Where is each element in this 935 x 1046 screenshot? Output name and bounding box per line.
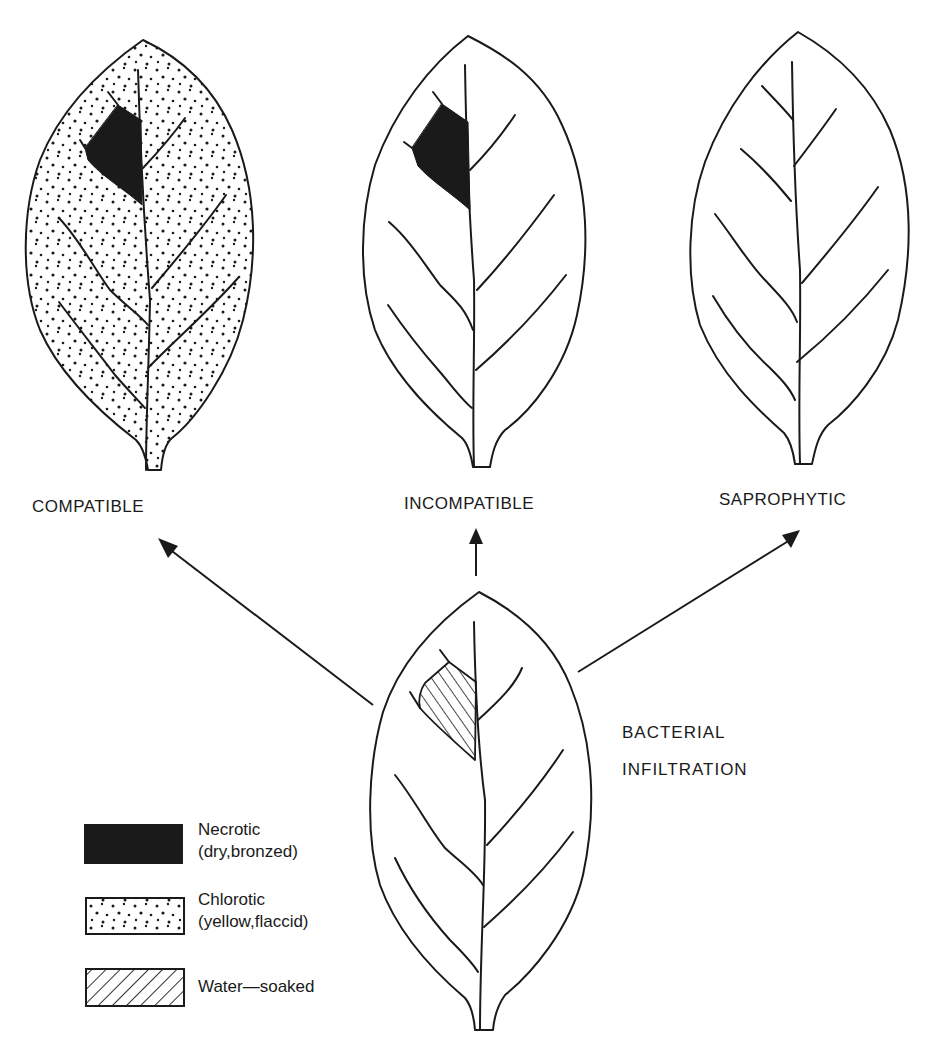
legend-necrotic-desc: (dry,bronzed)	[198, 841, 298, 863]
necrotic-lesion	[412, 104, 470, 210]
legend-chlorotic-desc: (yellow,flaccid)	[198, 911, 309, 933]
leaf-infiltrated	[370, 592, 591, 1030]
legend-item-chlorotic: Chlorotic (yellow,flaccid)	[198, 889, 309, 933]
legend-chlorotic-title: Chlorotic	[198, 889, 309, 911]
legend-swatch-chlorotic	[86, 898, 184, 934]
label-infiltration: INFILTRATION	[622, 760, 748, 780]
legend-swatch-water-soaked	[86, 969, 184, 1006]
arrow-to-compatible	[158, 538, 373, 705]
arrow-to-incompatible	[469, 528, 483, 576]
leaf-incompatible	[363, 36, 585, 467]
midrib	[792, 62, 800, 464]
leaf-diagram	[0, 0, 935, 1046]
legend-swatch-necrotic	[84, 824, 183, 864]
label-saprophytic: SAPROPHYTIC	[719, 490, 846, 510]
arrow-to-saprophytic	[578, 530, 800, 672]
leaf-compatible	[26, 40, 253, 470]
legend-item-necrotic: Necrotic (dry,bronzed)	[198, 819, 298, 863]
legend-item-water-soaked: Water—soaked	[198, 976, 315, 998]
label-bacterial: BACTERIAL	[622, 723, 725, 743]
label-compatible: COMPATIBLE	[32, 497, 144, 517]
water-soaked-lesion	[419, 662, 476, 760]
legend-necrotic-title: Necrotic	[198, 819, 298, 841]
label-incompatible: INCOMPATIBLE	[404, 494, 534, 514]
leaf-saprophytic	[690, 32, 908, 464]
legend-water-soaked-title: Water—soaked	[198, 976, 315, 998]
